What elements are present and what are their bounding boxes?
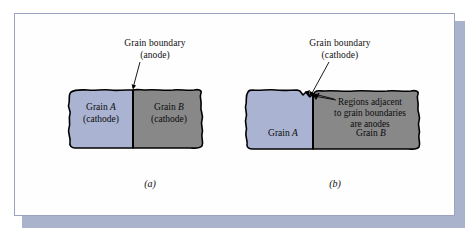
grain-b-letter: B xyxy=(178,102,184,112)
grain-a-prefix: Grain xyxy=(86,102,110,112)
grain-a-prefix-b: Grain xyxy=(268,128,292,138)
grain-label-b-left: Grain A xyxy=(252,128,314,140)
figure-root: Grain boundary (anode) Grain A (cathode)… xyxy=(0,0,470,238)
grain-a-letter-b: A xyxy=(292,128,298,138)
grain-label-a-right: Grain B (cathode) xyxy=(136,102,202,125)
callout-grain-boundary-anode: Grain boundary (anode) xyxy=(97,38,213,61)
callout-a-line1: Grain boundary xyxy=(97,38,213,50)
grain-a-name-line: Grain A xyxy=(68,102,134,114)
grain-b-name-line: Grain B xyxy=(136,102,202,114)
callout-grain-boundary-cathode: Grain boundary (cathode) xyxy=(282,38,398,61)
note-b-line2: to grain boundaries xyxy=(318,108,422,119)
callout-a-line2: (anode) xyxy=(97,50,213,62)
callout-b-line1: Grain boundary xyxy=(282,38,398,50)
grain-a-name-line-b: Grain A xyxy=(252,128,314,140)
grain-label-b-right: Grain B xyxy=(340,128,402,140)
grain-a-role: (cathode) xyxy=(68,114,134,126)
grain-b-name-line-b: Grain B xyxy=(340,128,402,140)
grain-b-role: (cathode) xyxy=(136,114,202,126)
panel-b-caption: (b) xyxy=(300,178,370,189)
grain-b-letter-b: B xyxy=(380,128,386,138)
grain-label-a-left: Grain A (cathode) xyxy=(68,102,134,125)
note-regions-adjacent-are-anodes: Regions adjacent to grain boundaries are… xyxy=(318,97,422,130)
panel-a-caption: (a) xyxy=(115,178,185,189)
grain-b-prefix-b: Grain xyxy=(356,128,380,138)
grain-b-prefix: Grain xyxy=(154,102,178,112)
grain-a-letter: A xyxy=(110,102,116,112)
callout-b-line2: (cathode) xyxy=(282,50,398,62)
note-b-line1: Regions adjacent xyxy=(318,97,422,108)
